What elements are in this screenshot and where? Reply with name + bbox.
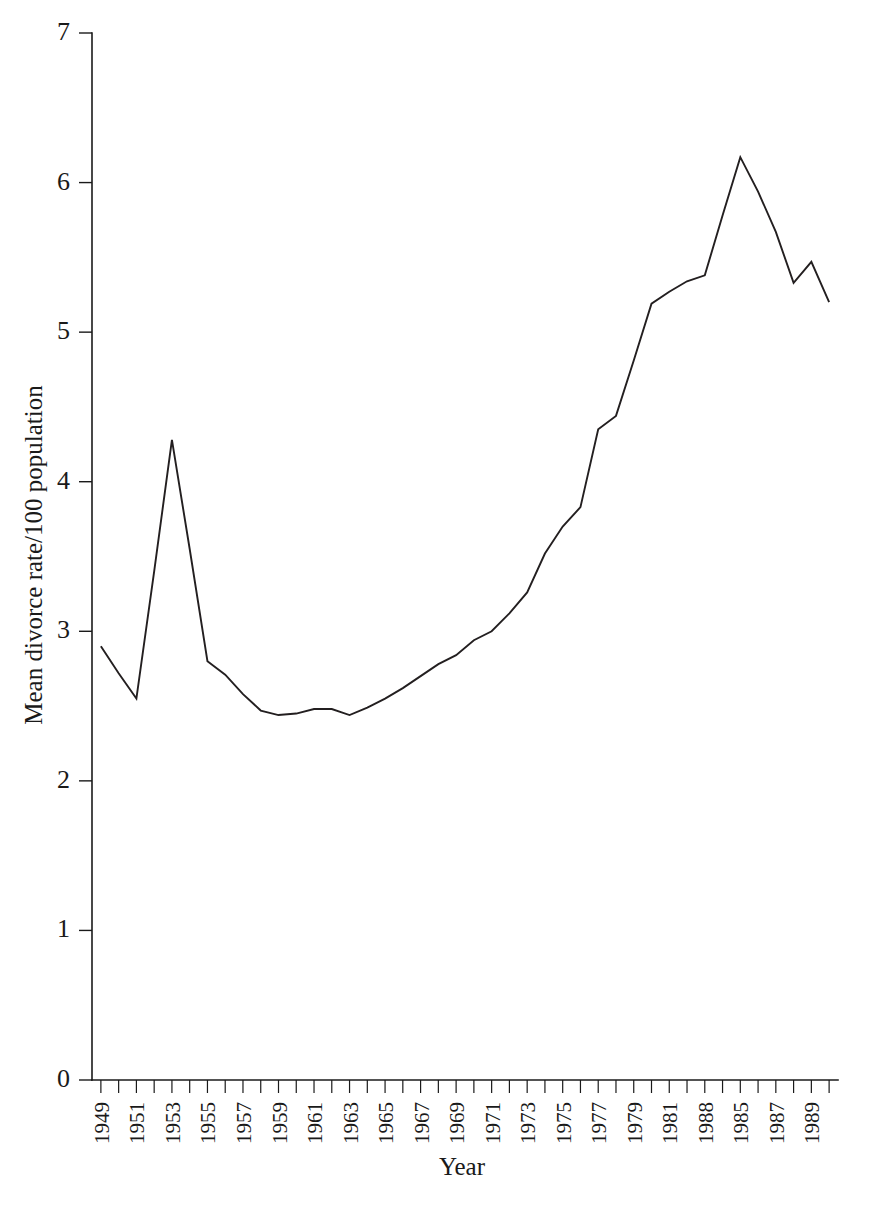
y-tick-label: 1 [57,914,70,943]
x-tick-label: 1959 [268,1102,292,1144]
x-tick-label: 1981 [658,1102,682,1144]
x-tick-label: 1979 [623,1102,647,1144]
y-tick-label: 0 [57,1064,70,1093]
y-tick-label: 2 [57,765,70,794]
x-tick-label: 1988 [694,1102,718,1144]
y-tick-label: 5 [57,316,70,345]
x-axis-title: Year [439,1153,486,1180]
x-tick-label: 1957 [232,1102,256,1144]
y-tick-label: 6 [57,167,70,196]
x-tick-label: 1967 [410,1102,434,1144]
y-axis-title: Mean divorce rate/100 population [20,385,47,725]
x-tick-label: 1963 [339,1102,363,1144]
x-tick-labels: 1949195119531955195719591961196319651967… [90,1102,824,1144]
x-axis [92,1080,838,1093]
x-tick-label: 1949 [90,1102,114,1144]
x-tick-label: 1971 [481,1102,505,1144]
x-tick-label: 1965 [374,1102,398,1144]
series-polyline [101,157,829,715]
x-tick-label: 1955 [196,1102,220,1144]
x-tick-label: 1951 [125,1102,149,1144]
x-tick-label: 1953 [161,1102,185,1144]
x-tick-label: 1961 [303,1102,327,1144]
x-tick-label: 1977 [587,1102,611,1144]
x-tick-label: 1975 [552,1102,576,1144]
y-tick-label: 7 [57,17,70,46]
x-tick-label: 1969 [445,1102,469,1144]
divorce-rate-line-chart: 01234567 1949195119531955195719591961196… [0,0,869,1211]
y-axis [79,33,92,1080]
x-tick-label: 1985 [729,1102,753,1144]
y-tick-label: 3 [57,615,70,644]
x-tick-label: 1973 [516,1102,540,1144]
chart-canvas: 01234567 1949195119531955195719591961196… [0,0,869,1211]
x-tick-label: 1989 [800,1102,824,1144]
y-tick-label: 4 [57,466,70,495]
data-series-line [101,157,829,715]
x-tick-label: 1987 [765,1102,789,1144]
y-tick-labels: 01234567 [57,17,70,1093]
